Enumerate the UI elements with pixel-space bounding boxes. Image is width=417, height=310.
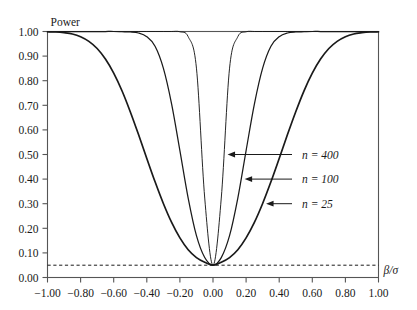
annotation-label: n = 100: [302, 173, 339, 185]
annotation-arrowhead: [245, 176, 253, 182]
annotation-arrowhead: [228, 152, 236, 158]
annotation-label: n = 400: [302, 149, 339, 161]
x-axis-tick-label: −0.60: [100, 287, 127, 299]
y-axis-tick-label: 0.20: [18, 223, 38, 235]
annotation-n-100: n = 100: [245, 173, 339, 185]
annotation-n-25: n = 25: [266, 198, 333, 210]
y-axis-tick-label: 0.40: [18, 173, 38, 185]
y-axis-tick-label: 0.90: [18, 50, 38, 62]
y-axis-tick-label: 0.80: [18, 75, 38, 87]
y-axis-tick-label: 0.00: [18, 272, 38, 284]
annotation-label: n = 25: [302, 198, 333, 210]
x-axis-tick-label: −0.80: [67, 287, 94, 299]
x-axis-tick-label: −0.20: [167, 287, 194, 299]
y-axis-tick-label: 0.70: [18, 100, 38, 112]
annotation-arrowhead: [266, 201, 274, 207]
power-curve-chart: −1.00−0.80−0.60−0.40−0.200.000.200.400.6…: [0, 0, 417, 310]
x-axis-tick-label: 0.20: [236, 287, 256, 299]
x-axis-tick-label: 0.80: [335, 287, 355, 299]
y-axis-tick-label: 0.50: [18, 149, 38, 161]
y-axis-tick-label: 1.00: [18, 26, 38, 38]
x-axis-tick-label: 1.00: [368, 287, 388, 299]
x-axis-tick-label: −0.40: [133, 287, 160, 299]
y-axis-tick-label: 0.10: [18, 247, 38, 259]
power-curve-figure: −1.00−0.80−0.60−0.40−0.200.000.200.400.6…: [0, 0, 417, 310]
x-axis-tick-label: 0.40: [269, 287, 289, 299]
x-axis-tick-label: −1.00: [34, 287, 61, 299]
y-axis-title: Power: [51, 16, 81, 28]
x-axis-title: β/σ: [383, 264, 400, 277]
y-axis-tick-label: 0.30: [18, 198, 38, 210]
x-axis-tick-label: 0.60: [302, 287, 322, 299]
x-axis-tick-label: 0.00: [203, 287, 223, 299]
y-axis-tick-label: 0.60: [18, 124, 38, 136]
